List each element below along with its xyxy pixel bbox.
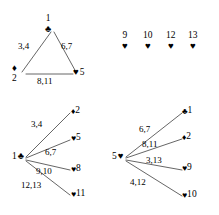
heart-icon: ♥: [73, 68, 79, 78]
edge-label-triangle-left: 3,4: [18, 42, 29, 51]
edge-label-triangle-bottom: 8,11: [37, 77, 52, 86]
edge-label-triangle-right: 6,7: [61, 42, 72, 51]
vertex-number: 11: [76, 189, 85, 199]
vertex-starright-center: 5 ♥: [112, 152, 124, 162]
heart-icon: ♥: [122, 42, 128, 52]
vertex-number: 10: [187, 190, 197, 200]
edge-label-starleft-8: 9,10: [36, 167, 52, 176]
vertex-number: 13: [188, 31, 198, 41]
vertex-number: 1: [188, 106, 193, 116]
edge-triangle-apex-right: [54, 32, 76, 72]
vertex-starleft-leaf-8: ♥ 8: [71, 164, 81, 174]
vertex-number: 2: [12, 74, 17, 84]
club-icon: ♣: [18, 152, 24, 162]
edge-triangle-apex-left: [22, 32, 51, 72]
vertex-starright-leaf-9: ♥ 9: [182, 163, 192, 173]
vertex-number: 1: [46, 14, 51, 24]
edge-label-starright-10: 4,12: [130, 178, 146, 187]
vertex-number: 5: [112, 152, 117, 162]
edge-label-starleft-5: 6,7: [45, 148, 56, 157]
vertex-starleft-leaf-5: ♥ 5: [71, 133, 81, 143]
heart-icon: ♥: [190, 42, 196, 52]
vertex-triangle-apex: 1 ♣: [45, 14, 51, 34]
vertex-starleft-center: 1 ♣: [12, 152, 24, 162]
vertex-starright-leaf-2: ♦ 2: [182, 132, 191, 142]
heart-icon: ♥: [118, 152, 124, 162]
edge-label-starright-1: 6,7: [139, 125, 150, 134]
vertex-number: 5: [80, 68, 85, 78]
vertex-triangle-left: ♦ 2: [12, 64, 17, 84]
vertex-isolated-12: 12 ♥: [166, 31, 176, 51]
vertex-number: 10: [143, 31, 153, 41]
edge-label-starright-9: 3,13: [146, 156, 162, 165]
vertex-number: 9: [122, 31, 127, 41]
heart-icon: ♥: [168, 42, 174, 52]
edge-starright-to-1: [126, 113, 182, 157]
vertex-starleft-leaf-2: ♦ 2: [71, 106, 80, 116]
vertex-number: 2: [186, 132, 191, 142]
vertex-starright-leaf-1: ♣ 1: [182, 106, 192, 116]
vertex-starright-leaf-10: ♥ 10: [182, 190, 197, 200]
vertex-isolated-9: 9 ♥: [122, 31, 128, 51]
club-icon: ♣: [45, 25, 51, 35]
vertex-number: 8: [76, 164, 81, 174]
vertex-isolated-13: 13 ♥: [188, 31, 198, 51]
vertex-number: 12: [166, 31, 176, 41]
card-graph-figure: 1 ♣ ♦ 2 ♥ 5 3,4 6,7 8,11 9 ♥ 10 ♥ 12 ♥ 1…: [0, 0, 219, 215]
edge-label-starleft-11: 12,13: [21, 181, 41, 190]
vertex-triangle-right: ♥ 5: [73, 68, 85, 78]
vertex-number: 5: [76, 133, 81, 143]
vertex-number: 2: [75, 106, 80, 116]
heart-icon: ♥: [145, 42, 151, 52]
vertex-isolated-10: 10 ♥: [143, 31, 153, 51]
vertex-starleft-leaf-11: ♥ 11: [71, 189, 85, 199]
vertex-number: 9: [187, 163, 192, 173]
edge-label-starleft-2: 3,4: [31, 120, 42, 129]
vertex-number: 1: [12, 152, 17, 162]
edge-label-starright-2: 8,11: [142, 140, 157, 149]
